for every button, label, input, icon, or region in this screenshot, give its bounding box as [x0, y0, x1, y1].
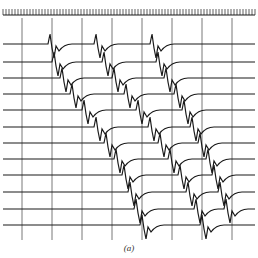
- waveform-trace: [3, 84, 255, 108]
- waveform-trace: [3, 133, 255, 157]
- waveform-trace: [3, 149, 255, 173]
- waveform-trace: [3, 52, 255, 76]
- waveform-trace: [3, 34, 255, 58]
- waveform-trace: [3, 215, 255, 239]
- waveform-figure: [0, 0, 258, 258]
- figure-caption: (a): [0, 243, 258, 253]
- waveform-trace: [3, 117, 255, 141]
- waveform-trace: [3, 68, 255, 92]
- waveform-trace: [3, 199, 255, 223]
